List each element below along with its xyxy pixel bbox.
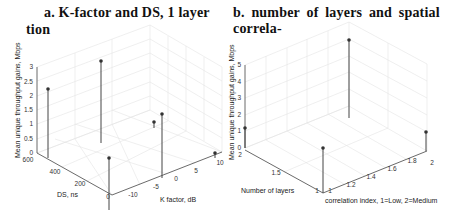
svg-text:-5: -5 — [153, 183, 159, 190]
svg-text:600: 600 — [23, 156, 34, 163]
data-point — [107, 156, 111, 160]
svg-text:0: 0 — [174, 175, 178, 182]
svg-text:1.5: 1.5 — [24, 106, 33, 113]
svg-text:10: 10 — [216, 159, 224, 166]
plot-a-ds-label: DS, ns — [57, 191, 79, 198]
svg-text:3: 3 — [29, 63, 33, 70]
svg-text:1: 1 — [29, 120, 33, 127]
data-point — [424, 130, 428, 134]
data-point — [347, 38, 351, 42]
svg-text:4: 4 — [237, 78, 241, 85]
svg-text:3: 3 — [237, 94, 241, 101]
svg-text:0: 0 — [106, 193, 110, 200]
plot-a-zlabel: Mean unique throughput gains, Mbps — [14, 42, 22, 158]
svg-text:2: 2 — [238, 151, 242, 158]
svg-text:0: 0 — [29, 149, 33, 156]
data-point — [46, 87, 50, 91]
plot-a-axes — [37, 67, 222, 195]
data-point — [321, 146, 325, 150]
data-point — [243, 126, 247, 130]
svg-text:5: 5 — [194, 167, 198, 174]
svg-text:2: 2 — [29, 92, 33, 99]
svg-text:200: 200 — [75, 180, 86, 187]
data-point — [160, 112, 164, 116]
svg-text:-10: -10 — [128, 191, 138, 198]
plot-b-zlabel: Mean unique throughput gains, Mbps — [228, 44, 236, 160]
svg-text:400: 400 — [50, 168, 61, 175]
data-point — [213, 151, 217, 155]
svg-text:1: 1 — [315, 187, 319, 194]
svg-text:2: 2 — [237, 111, 241, 118]
plot-b-z-ticks: 5 4 3 2 1 0 — [237, 61, 241, 151]
svg-text:1: 1 — [237, 127, 241, 134]
plot-b-corr-ticks: 1 1.2 1.4 1.6 1.8 2 — [328, 157, 434, 194]
svg-text:1: 1 — [328, 187, 332, 194]
svg-text:0: 0 — [237, 144, 241, 151]
svg-text:1.8: 1.8 — [407, 157, 416, 164]
plot-a-k-label: K factor, dB — [160, 196, 197, 203]
svg-text:0.5: 0.5 — [24, 135, 33, 142]
plot-b-grid — [245, 22, 427, 184]
svg-text:5: 5 — [237, 61, 241, 68]
plot-a: 3 2.5 2 1.5 1 0.5 0 600 400 200 0 -10 -5… — [14, 25, 224, 210]
svg-text:1.5: 1.5 — [271, 169, 280, 176]
plot-a-k-ticks: -10 -5 0 5 10 — [128, 159, 224, 198]
svg-text:1.4: 1.4 — [366, 173, 375, 180]
svg-text:1.6: 1.6 — [387, 165, 396, 172]
plot-a-z-ticks: 3 2.5 2 1.5 1 0.5 0 — [24, 63, 33, 156]
svg-text:1.2: 1.2 — [346, 181, 355, 188]
plot-b-corr-label: correlation index, 1=Low, 2=Medium — [325, 197, 438, 204]
figure-canvas: 3 2.5 2 1.5 1 0.5 0 600 400 200 0 -10 -5… — [0, 0, 450, 212]
plot-b: 5 4 3 2 1 0 2 1.5 1 1 1.2 1.4 1.6 1.8 2 … — [228, 22, 438, 204]
data-point — [152, 120, 156, 124]
svg-text:2.5: 2.5 — [24, 78, 33, 85]
data-point — [99, 59, 103, 63]
svg-text:2: 2 — [430, 159, 434, 166]
plot-b-layers-label: Number of layers — [241, 187, 295, 195]
